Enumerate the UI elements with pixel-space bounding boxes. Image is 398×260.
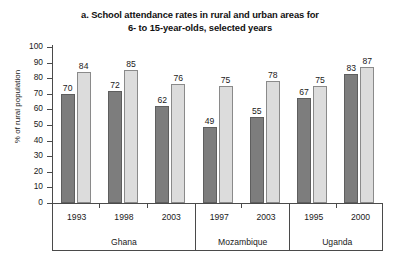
bar-value-rural: 49 (199, 116, 221, 126)
y-axis-tick-label: 70 (34, 88, 43, 98)
bar-value-urban: 75 (309, 75, 331, 85)
bar-value-rural: 72 (104, 80, 126, 90)
bar-rural (61, 94, 75, 203)
category-group-ghana: 199319982003Ghana (53, 204, 195, 251)
bar-rural (108, 91, 122, 203)
y-axis-tick-label: 0 (38, 197, 43, 207)
y-axis-tick-label: 100 (29, 41, 43, 51)
bar-value-rural: 62 (151, 95, 173, 105)
country-label: Ghana (53, 237, 195, 247)
year-label: 1993 (53, 209, 100, 229)
bar-value-urban: 75 (215, 75, 237, 85)
bar-rural (297, 98, 311, 203)
chart-title-line-2: 6- to 15-year-olds, selected years (40, 22, 360, 35)
y-axis-tick-label: 20 (34, 166, 43, 176)
year-label: 2003 (243, 209, 290, 229)
chart-title-line-1: a. School attendance rates in rural and … (40, 9, 360, 22)
year-label: 2003 (148, 209, 195, 229)
chart-title: a. School attendance rates in rural and … (40, 9, 360, 34)
country-label: Uganda (290, 237, 384, 247)
year-label: 1997 (196, 209, 243, 229)
bar-value-rural: 55 (246, 106, 268, 116)
y-axis-tick-label: 30 (34, 150, 43, 160)
bar-value-rural: 70 (57, 83, 79, 93)
bar-urban (219, 86, 233, 203)
bar-rural (344, 74, 358, 203)
bar-rural (155, 106, 169, 203)
bar-rural (203, 127, 217, 203)
year-label: 1998 (100, 209, 147, 229)
y-axis-tick-label: 50 (34, 119, 43, 129)
year-label: 1995 (290, 209, 337, 229)
bar-urban (77, 72, 91, 203)
y-axis-tick-label: 90 (34, 57, 43, 67)
bar-chart-figure: a. School attendance rates in rural and … (0, 0, 398, 260)
category-group-mozambique: 19972003Mozambique (195, 204, 290, 251)
bar-value-rural: 67 (293, 87, 315, 97)
bar-value-urban: 84 (73, 61, 95, 71)
bar-rural (250, 117, 264, 203)
y-axis-tick-label: 40 (34, 135, 43, 145)
year-label-row: 19972003 (196, 209, 290, 229)
year-label: 2000 (337, 209, 384, 229)
bar-urban (360, 67, 374, 203)
clipped-footer-text (60, 253, 360, 260)
plot-area: 7084728562764975557867758387 (52, 47, 383, 203)
category-group-uganda: 19952000Uganda (289, 204, 384, 251)
country-label: Mozambique (196, 237, 290, 247)
bar-urban (124, 70, 138, 203)
bar-value-urban: 78 (262, 70, 284, 80)
bar-urban (266, 81, 280, 203)
bar-value-urban: 76 (167, 73, 189, 83)
y-axis-title: % of rural population (13, 59, 22, 155)
category-axis-table: 199319982003Ghana19972003Mozambique19952… (52, 204, 383, 251)
bar-value-urban: 85 (120, 59, 142, 69)
y-axis-tick-label: 80 (34, 72, 43, 82)
bar-value-urban: 87 (356, 56, 378, 66)
y-axis-tick-label: 60 (34, 103, 43, 113)
year-label-row: 199319982003 (53, 209, 195, 229)
bar-urban (171, 84, 185, 203)
year-label-row: 19952000 (290, 209, 384, 229)
y-axis-tick-label: 10 (34, 181, 43, 191)
bar-urban (313, 86, 327, 203)
